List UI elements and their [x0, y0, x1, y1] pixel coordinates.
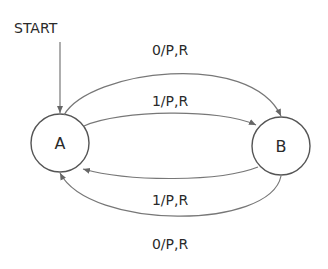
transition-label-b-a-1: 1/P,R — [152, 192, 189, 208]
transition-a-b-1 — [84, 113, 256, 126]
state-b: B — [252, 117, 310, 175]
transition-label-a-b-0: 0/P,R — [152, 42, 189, 58]
state-diagram: START A B 0/P,R 1/P,R 1/P,R 0/P,R — [0, 0, 328, 269]
transition-b-a-1 — [83, 167, 258, 179]
state-a-label: A — [55, 134, 66, 153]
state-b-label: B — [276, 137, 287, 156]
state-a: A — [31, 114, 89, 172]
start-label: START — [14, 20, 58, 36]
transition-label-a-b-1: 1/P,R — [152, 93, 189, 109]
transition-label-b-a-0: 0/P,R — [152, 236, 189, 252]
